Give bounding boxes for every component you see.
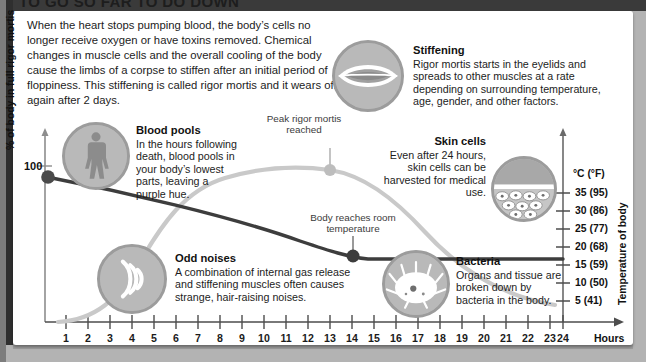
intro-paragraph: When the heart stops pumping blood, the … — [27, 18, 339, 109]
callout-body: A combination of internal gas release an… — [175, 266, 371, 303]
infographic-root: TO GO SO FAR TO DO DOWN When the heart s… — [0, 0, 646, 362]
callout-bacteria: Bacteria Organs and tissue are broken do… — [456, 255, 562, 306]
callout-heading: Blood pools — [136, 124, 240, 137]
callout-skin-cells: Skin cells Even after 24 hours, skin cel… — [370, 135, 486, 199]
temp-tick-5: 5 (41) — [575, 295, 602, 306]
x-tick-3: 3 — [102, 332, 118, 344]
x-tick-9: 9 — [234, 332, 250, 344]
x-tick-6: 6 — [168, 332, 184, 344]
temp-tick-30: 30 (86) — [575, 205, 608, 216]
x-tick-15: 15 — [366, 332, 382, 344]
x-tick-21: 21 — [498, 332, 514, 344]
annotation-peak-rigor: Peak rigor mortis reached — [262, 113, 346, 136]
title-bar: TO GO SO FAR TO DO DOWN — [13, 0, 646, 11]
callout-body: Organs and tissue are broken down by bac… — [456, 269, 562, 306]
x-tick-12: 12 — [300, 332, 316, 344]
callout-body: In the hours following death, blood pool… — [136, 138, 240, 200]
callout-heading: Odd noises — [175, 252, 371, 265]
x-tick-11: 11 — [278, 332, 294, 344]
y-axis-left-label: % of body in full rigor mortis — [5, 0, 16, 150]
callout-blood-pools: Blood pools In the hours following death… — [136, 124, 240, 200]
x-tick-14: 14 — [344, 332, 360, 344]
temp-tick-25: 25 (77) — [575, 223, 608, 234]
x-tick-5: 5 — [146, 332, 162, 344]
temp-tick-35: 35 (95) — [575, 187, 608, 198]
sound-waves-icon — [97, 244, 167, 314]
x-tick-22: 22 — [520, 332, 536, 344]
y-axis-tick-100: 100 — [24, 160, 42, 172]
x-tick-17: 17 — [410, 332, 426, 344]
x-tick-16: 16 — [388, 332, 404, 344]
page-title: TO GO SO FAR TO DO DOWN — [19, 0, 239, 10]
x-tick-18: 18 — [432, 332, 448, 344]
callout-stiffening: Stiffening Rigor mortis starts in the ey… — [413, 44, 613, 108]
callout-body: Even after 24 hours, skin cells can be h… — [370, 149, 486, 199]
x-tick-7: 7 — [190, 332, 206, 344]
x-tick-10: 10 — [256, 332, 272, 344]
body-silhouette-icon — [62, 122, 130, 190]
annotation-room-temperature: Body reaches room temperature — [295, 212, 411, 235]
x-tick-8: 8 — [212, 332, 228, 344]
x-tick-20: 20 — [476, 332, 492, 344]
callout-heading: Skin cells — [370, 135, 486, 148]
bacteria-cell-icon — [382, 250, 450, 318]
x-tick-19: 19 — [454, 332, 470, 344]
callout-heading: Bacteria — [456, 255, 562, 268]
temp-tick-15: 15 (59) — [575, 259, 608, 270]
temperature-unit-header: °C (°F) — [573, 168, 605, 179]
x-tick-4: 4 — [124, 332, 140, 344]
x-tick-1: 1 — [58, 332, 74, 344]
temp-tick-10: 10 (50) — [575, 277, 608, 288]
x-tick-24: 24 — [555, 332, 571, 344]
callout-heading: Stiffening — [413, 44, 613, 57]
y-axis-right-label: Temperature of body — [617, 155, 628, 305]
callout-odd-noises: Odd noises A combination of internal gas… — [175, 252, 371, 303]
eye-icon — [332, 40, 404, 112]
x-tick-2: 2 — [80, 332, 96, 344]
callout-body: Rigor mortis starts in the eyelids and s… — [413, 58, 613, 108]
temp-tick-20: 20 (68) — [575, 241, 608, 252]
skin-cells-icon — [491, 156, 557, 222]
x-axis-label: Hours — [594, 332, 624, 344]
x-tick-13: 13 — [322, 332, 338, 344]
